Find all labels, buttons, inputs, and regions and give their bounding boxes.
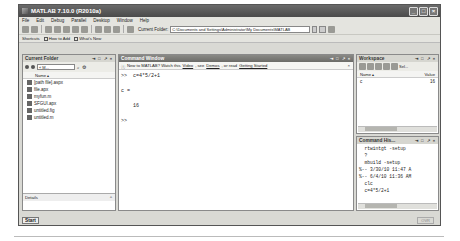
shortcut-whats-new[interactable]: What's New [74, 36, 101, 41]
current-folder-panel: Current Folder ⇥ □ ↗ × « M... ⌕ ⚙ Name ▴… [22, 54, 116, 211]
panel-controls[interactable]: ⇥ □ ↗ × [415, 56, 438, 61]
history-entry[interactable]: mbuild -setup [359, 159, 436, 166]
panel-controls[interactable]: ⇥ □ ↗ × [415, 138, 438, 143]
divider [14, 236, 444, 237]
history-session[interactable]: %-- 6/4/10 11:36 AM [359, 173, 436, 180]
print-icon[interactable] [383, 63, 390, 70]
menu-file[interactable]: File [22, 18, 29, 23]
close-button[interactable]: × [429, 7, 438, 16]
new-file-icon[interactable] [22, 26, 29, 33]
undo-icon[interactable] [72, 26, 79, 33]
history-entry[interactable]: ? [359, 152, 436, 159]
command-output[interactable]: >> c=4*5/2+1 c = 16 >> [119, 70, 353, 129]
video-link[interactable]: Video [183, 63, 194, 68]
shortcut-how-to-add[interactable]: How to Add [44, 36, 70, 41]
simulink-icon[interactable] [95, 26, 102, 33]
file-item[interactable]: untitled.fig [23, 107, 115, 114]
info-icon: ⓘ [121, 63, 125, 69]
toolbar-separator [123, 25, 124, 33]
file-item[interactable]: untitled.m [23, 114, 115, 121]
variable-value: 16 [430, 79, 435, 84]
history-session[interactable]: %-- 3/30/10 11:47 A [359, 166, 436, 173]
name-column-header[interactable]: Name ▴ [23, 72, 115, 79]
panel-controls[interactable]: ⇥ □ ↗ × [330, 56, 353, 61]
toolbar-separator [91, 25, 92, 33]
value-column-header[interactable]: Value [425, 72, 435, 77]
menu-edit[interactable]: Edit [36, 18, 44, 23]
folder-path-dropdown[interactable]: « M... [37, 64, 75, 70]
info-text: New to MATLAB? Watch this [127, 63, 181, 68]
status-bar: Start OVR [19, 215, 440, 225]
guide-icon[interactable] [104, 26, 111, 33]
history-entry[interactable]: rtwintgt -setup [359, 145, 436, 152]
horizontal-scrollbar[interactable] [358, 126, 437, 132]
panel-title: Command His... [359, 138, 415, 143]
new-variable-icon[interactable] [359, 63, 366, 70]
workspace-toolbar: Sel... [357, 62, 438, 71]
details-bar[interactable]: Details ^ [23, 193, 115, 201]
overwrite-indicator: OVR [417, 217, 434, 224]
help-icon[interactable] [127, 26, 134, 33]
file-item[interactable]: SFGUI.apx [23, 100, 115, 107]
maximize-button[interactable]: □ [419, 7, 428, 16]
command-window-panel: Command Window ⇥ □ ↗ × ⓘ New to MATLAB? … [118, 54, 354, 211]
profiler-icon[interactable] [113, 26, 120, 33]
paste-icon[interactable] [63, 26, 70, 33]
horizontal-scrollbar[interactable] [358, 203, 437, 209]
start-button[interactable]: Start [22, 217, 39, 224]
menu-debug[interactable]: Debug [51, 18, 64, 23]
menu-help[interactable]: Help [140, 18, 149, 23]
file-item[interactable]: file.apx [23, 86, 115, 93]
current-folder-input[interactable]: C:\Documents and Settings\Administrator\… [170, 26, 310, 33]
file-icon [27, 87, 32, 92]
plot-select[interactable]: Sel... [399, 64, 408, 69]
panel-controls[interactable]: ⇥ □ ↗ × [92, 56, 115, 61]
demos-link[interactable]: Demos [206, 63, 219, 68]
window-title: MATLAB 7.10.0 (R2010a) [31, 8, 409, 14]
plot-icon[interactable] [391, 63, 398, 70]
getting-started-link[interactable]: Getting Started [239, 63, 267, 68]
forward-arrow-icon[interactable] [31, 65, 35, 69]
open-file-icon[interactable] [31, 26, 38, 33]
m-file-icon [27, 115, 32, 120]
name-column-header[interactable]: Name ▴ [360, 72, 374, 77]
browse-folder-button[interactable] [319, 26, 326, 33]
shortcut-icon [74, 37, 78, 41]
history-entry[interactable]: c=4*5/2+1 [359, 187, 436, 194]
menu-bar: File Edit Debug Parallel Desktop Window … [19, 17, 440, 24]
save-icon[interactable] [375, 63, 382, 70]
copy-icon[interactable] [54, 26, 61, 33]
matlab-window: MATLAB 7.10.0 (R2010a) _ □ × File Edit D… [18, 4, 441, 226]
workspace-variable-row[interactable]: c 16 [357, 78, 438, 85]
history-list: rtwintgt -setup ? mbuild -setup%-- 3/30/… [357, 144, 438, 195]
search-icon[interactable]: ⌕ [77, 65, 80, 70]
minimize-button[interactable]: _ [409, 7, 418, 16]
file-icon [27, 80, 32, 85]
file-icon [27, 101, 32, 106]
toolbar-separator [41, 25, 42, 33]
panel-title: Workspace [359, 56, 415, 61]
menu-window[interactable]: Window [117, 18, 133, 23]
folder-dropdown-button[interactable] [312, 26, 317, 33]
command-history-title-bar: Command His... ⇥ □ ↗ × [357, 137, 438, 144]
command-window-title-bar: Command Window ⇥ □ ↗ × [119, 55, 353, 62]
shortcuts-label: Shortcuts [22, 36, 40, 41]
history-entry[interactable]: clc [359, 180, 436, 187]
menu-parallel[interactable]: Parallel [71, 18, 86, 23]
redo-icon[interactable] [81, 26, 88, 33]
current-folder-label: Current Folder: [138, 27, 168, 32]
chevron-up-icon[interactable]: ^ [110, 195, 112, 200]
cut-icon[interactable] [45, 26, 52, 33]
close-icon[interactable]: × [348, 63, 350, 68]
panel-title: Current Folder [25, 56, 92, 61]
up-folder-icon[interactable] [328, 26, 335, 33]
open-variable-icon[interactable] [367, 63, 374, 70]
file-item[interactable]: myfun.m [23, 93, 115, 100]
file-item[interactable]: [path file].aspx [23, 79, 115, 86]
gear-icon[interactable]: ⚙ [82, 65, 86, 70]
variable-name: c [360, 79, 362, 84]
m-file-icon [27, 94, 32, 99]
back-arrow-icon[interactable] [25, 65, 29, 69]
matlab-logo-icon [22, 8, 28, 14]
menu-desktop[interactable]: Desktop [93, 18, 110, 23]
